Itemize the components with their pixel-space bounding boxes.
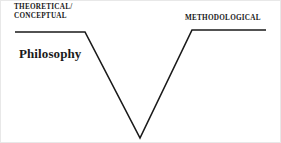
label-theoretical-line2: CONCEPTUAL: [14, 13, 73, 21]
label-methodological: METHODOLOGICAL: [185, 15, 261, 23]
philosophy-v-diagram: THEORETICAL/ CONCEPTUAL METHODOLOGICAL P…: [0, 0, 281, 143]
label-theoretical-conceptual: THEORETICAL/ CONCEPTUAL: [14, 4, 73, 21]
label-philosophy: Philosophy: [19, 47, 81, 61]
label-theoretical-line1: THEORETICAL/: [14, 3, 73, 11]
